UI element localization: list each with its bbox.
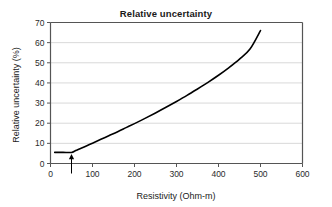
arrow-head — [69, 154, 74, 159]
x-tick-label: 600 — [295, 169, 309, 179]
y-tick-label: 50 — [35, 58, 45, 68]
series-path — [55, 31, 261, 153]
y-axis-tick-labels: 010203040506070 — [35, 18, 45, 169]
x-tick-label: 400 — [211, 169, 225, 179]
y-tick-label: 20 — [35, 118, 45, 128]
gridlines — [51, 23, 303, 144]
y-tick-label: 30 — [35, 98, 45, 108]
plot-frame — [51, 23, 303, 164]
chart-figure: Relative uncertainty 0100200300400500600… — [0, 0, 332, 207]
y-axis-label: Relative uncertainty (%) — [11, 47, 21, 143]
x-tick-label: 300 — [169, 169, 183, 179]
plot-area: 0100200300400500600 010203040506070 Resi… — [0, 0, 332, 207]
x-tick-label: 100 — [85, 169, 99, 179]
x-tick-label: 500 — [253, 169, 267, 179]
x-tick-label: 200 — [127, 169, 141, 179]
y-tick-label: 60 — [35, 38, 45, 48]
y-tick-label: 70 — [35, 18, 45, 28]
y-tick-label: 0 — [40, 159, 45, 169]
data-series-line — [55, 31, 261, 153]
x-axis-label: Resistivity (Ohm-m) — [137, 191, 216, 201]
y-tick-label: 40 — [35, 78, 45, 88]
x-axis-tick-labels: 0100200300400500600 — [48, 169, 310, 179]
y-tick-label: 10 — [35, 138, 45, 148]
x-tick-label: 0 — [48, 169, 53, 179]
